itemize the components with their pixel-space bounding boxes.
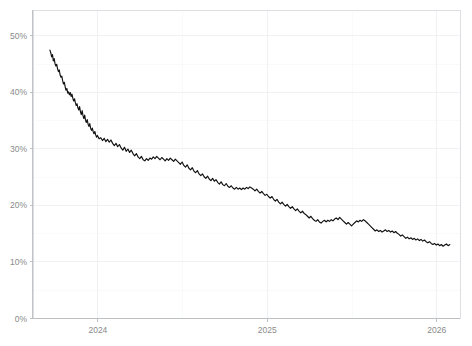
- y-axis-tick-label: 40%: [10, 87, 27, 97]
- x-axis-tick-label: 2026: [427, 325, 446, 335]
- chart-container: 50%40%30%20%10%0% 202420252026: [0, 0, 472, 346]
- x-axis-tick-label: 2025: [258, 325, 277, 335]
- y-axis-tick-label: 0%: [15, 314, 28, 324]
- x-axis-tick-label: 2024: [88, 325, 107, 335]
- y-axis-tick-label: 30%: [10, 144, 27, 154]
- y-axis-tick-label: 50%: [10, 31, 27, 41]
- plot-panel-background: [33, 10, 460, 318]
- y-axis-tick-label: 10%: [10, 257, 27, 267]
- y-axis-ticks: 50%40%30%20%10%0%: [10, 31, 33, 324]
- y-axis-tick-label: 20%: [10, 200, 27, 210]
- line-chart: 50%40%30%20%10%0% 202420252026: [0, 0, 472, 346]
- x-axis-ticks: 202420252026: [88, 319, 446, 335]
